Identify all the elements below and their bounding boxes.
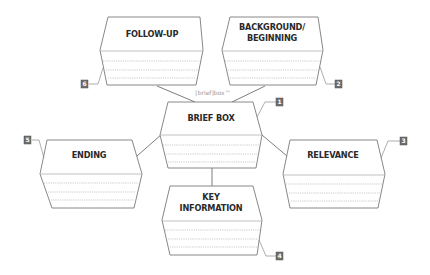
box-background: BACKGROUND/ BEGINNING 2 (222, 17, 342, 88)
box-ending: ENDING 5 (24, 136, 142, 208)
box-label-relevance: RELEVANCE (307, 150, 358, 160)
box-label-background-line2: BEGINNING (247, 33, 298, 43)
badge-number-2: 2 (336, 80, 340, 87)
connector-follow-up-brief (157, 86, 195, 102)
callout-5 (32, 140, 44, 158)
connector-relevance-brief (262, 135, 287, 156)
callout-3 (381, 141, 400, 158)
box-label-key-information-line2: INFORMATION (180, 203, 243, 213)
callout-2 (320, 67, 335, 84)
badge-number-4: 4 (277, 252, 281, 259)
connector-ending-brief (137, 134, 162, 156)
callout-4 (259, 240, 276, 256)
callout-1 (257, 102, 276, 117)
box-brief-box: BRIEF BOX 1 (160, 98, 283, 168)
badge-number-1: 1 (277, 98, 281, 105)
brief-box-diagram: FOLLOW-UP 6 BACKGROUND/ BEGINNING 2 [bri… (0, 0, 430, 275)
connector-background-brief (232, 86, 265, 102)
callout-6 (89, 68, 103, 84)
box-follow-up: FOLLOW-UP 6 (81, 17, 203, 88)
box-label-follow-up: FOLLOW-UP (126, 29, 179, 39)
brand-watermark: [brief]box™ (195, 89, 230, 96)
box-label-brief-box: BRIEF BOX (187, 113, 235, 123)
badge-number-5: 5 (25, 136, 29, 143)
box-key-information: KEY INFORMATION 4 (162, 186, 283, 260)
box-label-key-information-line1: KEY (202, 192, 221, 202)
box-label-background-line1: BACKGROUND/ (239, 22, 305, 32)
badge-number-6: 6 (82, 80, 86, 87)
badge-number-3: 3 (401, 137, 405, 144)
box-label-ending: ENDING (72, 150, 107, 160)
box-relevance: RELEVANCE 3 (283, 137, 407, 208)
